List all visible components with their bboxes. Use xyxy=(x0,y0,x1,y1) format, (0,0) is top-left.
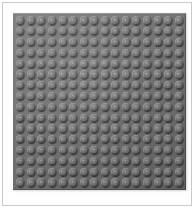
lego-stud xyxy=(142,58,153,69)
lego-stud xyxy=(36,80,47,91)
lego-stud xyxy=(36,37,47,48)
lego-stud xyxy=(68,145,79,156)
lego-stud xyxy=(15,166,26,177)
lego-stud xyxy=(26,145,37,156)
lego-stud xyxy=(78,112,89,123)
lego-stud xyxy=(47,177,58,188)
lego-stud xyxy=(36,102,47,113)
lego-stud xyxy=(142,47,153,58)
lego-stud xyxy=(152,156,163,167)
lego-stud xyxy=(163,145,174,156)
lego-stud xyxy=(152,112,163,123)
lego-stud xyxy=(26,47,37,58)
lego-stud xyxy=(131,177,142,188)
lego-stud xyxy=(131,15,142,26)
lego-stud xyxy=(100,177,111,188)
lego-stud xyxy=(57,166,68,177)
lego-stud xyxy=(26,177,37,188)
lego-stud xyxy=(131,47,142,58)
lego-stud xyxy=(15,26,26,37)
lego-stud xyxy=(131,69,142,80)
lego-stud xyxy=(15,123,26,134)
lego-stud xyxy=(110,102,121,113)
lego-stud xyxy=(57,37,68,48)
lego-stud xyxy=(78,15,89,26)
lego-stud xyxy=(110,134,121,145)
lego-stud xyxy=(100,123,111,134)
lego-stud xyxy=(57,177,68,188)
lego-stud xyxy=(68,26,79,37)
lego-stud xyxy=(100,145,111,156)
lego-stud xyxy=(89,80,100,91)
lego-stud xyxy=(173,166,184,177)
lego-stud xyxy=(121,123,132,134)
lego-stud xyxy=(15,91,26,102)
lego-stud xyxy=(110,37,121,48)
lego-stud xyxy=(100,156,111,167)
lego-stud xyxy=(121,80,132,91)
lego-stud xyxy=(152,123,163,134)
lego-stud xyxy=(78,156,89,167)
lego-stud xyxy=(78,145,89,156)
lego-stud xyxy=(142,123,153,134)
lego-stud xyxy=(163,123,174,134)
lego-stud xyxy=(89,58,100,69)
lego-stud xyxy=(57,69,68,80)
lego-stud xyxy=(173,91,184,102)
lego-stud xyxy=(152,26,163,37)
lego-stud xyxy=(26,15,37,26)
lego-stud xyxy=(173,134,184,145)
lego-stud xyxy=(47,156,58,167)
lego-stud xyxy=(68,80,79,91)
lego-stud xyxy=(47,47,58,58)
lego-stud xyxy=(57,80,68,91)
lego-stud xyxy=(142,80,153,91)
lego-stud xyxy=(131,37,142,48)
lego-stud xyxy=(78,134,89,145)
lego-stud xyxy=(121,47,132,58)
lego-stud xyxy=(47,91,58,102)
lego-stud xyxy=(142,102,153,113)
lego-stud xyxy=(131,112,142,123)
lego-stud xyxy=(163,69,174,80)
lego-stud xyxy=(173,177,184,188)
lego-stud xyxy=(152,134,163,145)
lego-stud xyxy=(47,166,58,177)
lego-stud xyxy=(15,145,26,156)
lego-stud xyxy=(173,58,184,69)
lego-stud xyxy=(57,156,68,167)
lego-stud xyxy=(173,47,184,58)
lego-stud xyxy=(47,15,58,26)
stud-grid xyxy=(13,13,186,190)
lego-stud xyxy=(173,145,184,156)
lego-stud xyxy=(47,37,58,48)
lego-stud xyxy=(142,112,153,123)
lego-stud xyxy=(131,91,142,102)
lego-stud xyxy=(15,80,26,91)
lego-stud xyxy=(36,156,47,167)
lego-stud xyxy=(89,37,100,48)
lego-stud xyxy=(78,37,89,48)
lego-stud xyxy=(78,102,89,113)
lego-stud xyxy=(121,166,132,177)
lego-stud xyxy=(57,58,68,69)
lego-stud xyxy=(163,58,174,69)
lego-stud xyxy=(15,156,26,167)
lego-stud xyxy=(163,91,174,102)
lego-stud xyxy=(110,112,121,123)
lego-stud xyxy=(121,134,132,145)
lego-stud xyxy=(26,123,37,134)
lego-stud xyxy=(15,112,26,123)
lego-stud xyxy=(47,102,58,113)
lego-stud xyxy=(47,123,58,134)
lego-stud xyxy=(89,47,100,58)
lego-stud xyxy=(152,80,163,91)
lego-stud xyxy=(173,112,184,123)
lego-stud xyxy=(163,47,174,58)
lego-stud xyxy=(110,166,121,177)
lego-stud xyxy=(47,80,58,91)
lego-stud xyxy=(68,123,79,134)
lego-stud xyxy=(121,177,132,188)
lego-stud xyxy=(152,91,163,102)
lego-stud xyxy=(110,80,121,91)
